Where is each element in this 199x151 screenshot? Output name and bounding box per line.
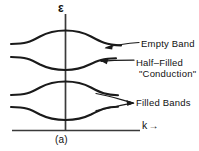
annotation-filled-bands: Filled Bands <box>136 97 191 108</box>
band-structure-figure: ε k→ Empty Band Half–Filled "Conduction"… <box>0 0 199 151</box>
arrow-head-empty-band <box>105 44 114 49</box>
band-curve-filled-band-upper <box>11 82 118 96</box>
x-axis-label-k: k→ <box>142 119 159 132</box>
y-axis-label-epsilon: ε <box>58 1 64 15</box>
x-axis-arrow-glyph: → <box>148 120 158 131</box>
band-curve-filled-band-lower <box>11 107 118 120</box>
annotation-empty-band: Empty Band <box>141 38 195 49</box>
arrow-head-filled-band-lower <box>127 100 135 105</box>
annotation-half-filled-line2: "Conduction" Band <box>139 68 199 79</box>
panel-caption: (a) <box>55 134 68 146</box>
x-axis-label-k-text: k <box>142 119 147 131</box>
band-curve-half-filled-conduction-band <box>11 57 116 70</box>
annotation-half-filled-conduction-band: Half–Filled "Conduction" Band <box>136 57 199 79</box>
annotation-half-filled-line1: Half–Filled <box>136 57 183 68</box>
